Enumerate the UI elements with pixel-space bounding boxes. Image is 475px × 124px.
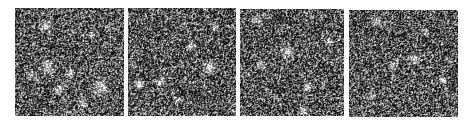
noise-panel-2: [128, 8, 236, 116]
noise-texture-1: [15, 8, 124, 116]
noise-texture-2: [128, 8, 236, 116]
noise-texture-4: [349, 10, 458, 117]
noise-panel-3: [240, 9, 344, 116]
noise-panel-1: [15, 8, 124, 116]
noise-texture-3: [240, 9, 344, 116]
noise-panel-4: [349, 10, 458, 117]
